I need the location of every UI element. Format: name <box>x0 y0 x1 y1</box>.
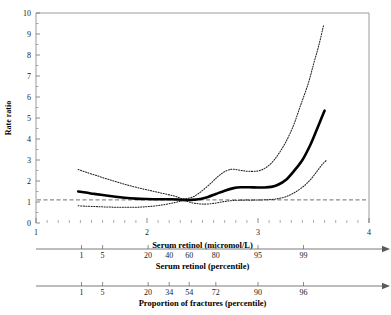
secondary-axis-2-tick-label: 96 <box>300 288 308 297</box>
secondary-axis-2-tick-label: 90 <box>254 288 262 297</box>
secondary-axis-1-tick-label: 99 <box>300 251 308 260</box>
yaxis-title: Rate ratio <box>4 101 13 135</box>
y-tick-label: 8 <box>27 51 31 60</box>
y-tick-label: 4 <box>27 135 31 144</box>
secondary-axis-1-tick-label: 1 <box>80 251 84 260</box>
y-tick-label: 5 <box>27 114 31 123</box>
secondary-axis-1-tick-label: 60 <box>185 251 193 260</box>
secondary-axis-1-tick-label: 20 <box>144 251 152 260</box>
secondary-axis-2-tick-label: 20 <box>144 288 152 297</box>
x-tick-label: 3 <box>256 228 260 237</box>
y-tick-label: 0 <box>27 219 31 228</box>
y-tick-label: 6 <box>27 93 31 102</box>
secondary-axis-2-tick-label: 1 <box>80 288 84 297</box>
secondary-axis-2-arrow-icon <box>382 283 390 289</box>
secondary-axis-2-tick-label: 54 <box>185 288 193 297</box>
secondary-axis-1-tick-label: 5 <box>101 251 105 260</box>
x-tick-label: 1 <box>34 228 38 237</box>
secondary-axis-2-title: Proportion of fractures (percentile) <box>139 298 267 308</box>
y-tick-label: 1 <box>27 198 31 207</box>
secondary-axis-1-tick-label: 80 <box>212 251 220 260</box>
secondary-axis-2-tick-label: 34 <box>165 288 173 297</box>
secondary-axis-1-title: Serum retinol (percentile) <box>156 261 250 271</box>
secondary-axis-1-tick-label: 95 <box>254 251 262 260</box>
x-tick-label: 4 <box>367 228 371 237</box>
y-tick-label: 3 <box>27 156 31 165</box>
x-tick-label: 2 <box>145 228 149 237</box>
y-tick-label: 7 <box>27 72 31 81</box>
y-tick-label: 9 <box>27 30 31 39</box>
secondary-axis-1-tick-label: 40 <box>165 251 173 260</box>
figure-container: 0123456789101234Serum retinol (micromol/… <box>0 0 391 315</box>
secondary-axis-2-tick-label: 5 <box>101 288 105 297</box>
y-tick-label: 10 <box>23 9 31 18</box>
y-tick-label: 2 <box>27 177 31 186</box>
series-line-ci-1 <box>78 26 323 199</box>
secondary-axis-2-tick-label: 72 <box>212 288 220 297</box>
series-line-main <box>78 111 324 200</box>
secondary-axis-1-arrow-icon <box>382 246 390 252</box>
rate-ratio-chart: 0123456789101234Serum retinol (micromol/… <box>0 0 391 315</box>
